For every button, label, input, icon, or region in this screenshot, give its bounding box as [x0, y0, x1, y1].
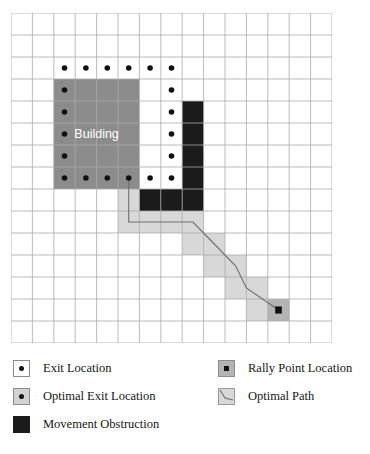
legend-item-rally-point-location: Rally Point Location [218, 360, 352, 377]
building-label: Building [74, 127, 119, 141]
optimal-path-swatch [218, 388, 235, 405]
rally-point-marker [275, 306, 282, 313]
evacuation-map-figure: Building Exit Location Optimal Exit Loca… [0, 0, 370, 454]
legend-label-rally-point-location: Rally Point Location [248, 362, 352, 375]
legend-item-optimal-path: Optimal Path [218, 388, 314, 405]
legend-label-optimal-path: Optimal Path [248, 390, 314, 403]
optimal-exit-dot [126, 175, 132, 181]
optimal-exit-swatch [13, 388, 30, 405]
exit-swatch [13, 360, 30, 377]
legend-label-movement-obstruction: Movement Obstruction [43, 418, 159, 431]
legend-item-exit-location: Exit Location [13, 360, 111, 377]
map-legend: Exit Location Optimal Exit Location Move… [0, 355, 370, 454]
legend-item-movement-obstruction: Movement Obstruction [13, 416, 159, 433]
optimal-path-line-icon [219, 389, 234, 404]
legend-item-optimal-exit-location: Optimal Exit Location [13, 388, 155, 405]
legend-label-optimal-exit-location: Optimal Exit Location [43, 390, 155, 403]
grid-map: Building [11, 13, 332, 343]
grid-map-canvas: Building [11, 13, 332, 343]
obstruction-swatch [13, 416, 30, 433]
exit-dot-icon [19, 366, 24, 371]
rally-point-square-icon [224, 366, 229, 371]
optimal-exit-dot-icon [19, 394, 24, 399]
legend-label-exit-location: Exit Location [43, 362, 111, 375]
rally-point-swatch [218, 360, 235, 377]
